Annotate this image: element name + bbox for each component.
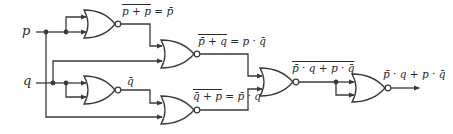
wire-g2-to-g5 [200, 54, 262, 76]
wire-g1-to-g2 [121, 24, 162, 46]
gate-1-label: p + p = p̄ [122, 6, 173, 17]
gate-1-label-rest: = p̄ [151, 5, 173, 17]
wire-g3-to-g4 [121, 90, 162, 103]
junction-dot [51, 81, 56, 86]
gate-6-output-label: p̄ · q + p · q̄ [383, 69, 445, 80]
gate-2-label-overbar: p̄ + q [198, 35, 227, 47]
input-label-q: q [23, 74, 31, 87]
gate-5-label: p̄ · q + p · q̄ [292, 63, 354, 74]
gate-3-label: q̄ [127, 76, 134, 87]
nor-gate-2 [161, 40, 200, 68]
gate-5-label-overbar: p̄ · q + p · q̄ [292, 62, 354, 74]
gate-4-label-overbar: q̄ + p [193, 90, 222, 102]
junction-dot [64, 81, 69, 86]
gate-6-label-rest: p̄ · q + p · q̄ [383, 68, 445, 80]
nor-circuit-diagram [0, 0, 453, 134]
junction-dot [64, 30, 69, 35]
nor-gate-3 [84, 76, 121, 104]
gate-2-label-rest: = p · q̄ [227, 35, 266, 47]
gate-2-label: p̄ + q = p · q̄ [198, 36, 266, 47]
junction-dot [334, 80, 339, 85]
junction-dot [44, 30, 49, 35]
input-label-p: p [22, 24, 30, 37]
gate-1-label-overbar: p + p [122, 5, 151, 17]
gate-3-label-rest: q̄ [127, 75, 134, 87]
nor-gate-1 [84, 10, 121, 38]
gate-4-label-rest: = p̄ · q [222, 90, 261, 102]
gate-4-label: q̄ + p = p̄ · q [193, 91, 261, 102]
